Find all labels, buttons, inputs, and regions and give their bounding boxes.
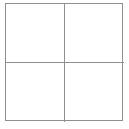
quadrant-top-left — [6, 4, 64, 62]
quadrant-top-right — [65, 4, 123, 62]
quadrant-bottom-left: a — [6, 63, 64, 121]
figure-canvas: a — [0, 0, 129, 129]
quadrant-bottom-right — [65, 63, 123, 121]
